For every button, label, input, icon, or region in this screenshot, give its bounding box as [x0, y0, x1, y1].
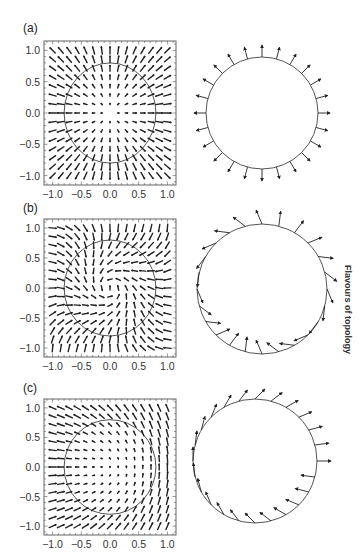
boundary-vector-arrow [228, 161, 234, 171]
x-tick-label: 1.0 [160, 538, 175, 550]
x-tick-label: −0.5 [71, 360, 92, 372]
boundary-vector-arrow [203, 79, 213, 85]
y-tick-label: 0.5 [25, 431, 40, 443]
vector-field-plot-a: −1.0−1.0−0.5−0.50.00.00.50.51.01.0 [19, 41, 176, 200]
x-tick-label: −1.0 [42, 538, 63, 550]
boundary-vector-arrow [295, 488, 309, 492]
x-tick-label: −1.0 [42, 360, 63, 372]
boundary-vector-arrow [256, 210, 262, 224]
panel-label-a: (a) [23, 21, 38, 35]
y-tick-label: −1.0 [19, 170, 40, 182]
boundary-vector-arrow [327, 289, 333, 303]
boundary-vector-arrow [196, 95, 208, 98]
boundary-vector-arrow [302, 153, 310, 161]
y-tick-label: 0.0 [25, 107, 40, 119]
boundary-vector-arrow [271, 393, 282, 402]
boundary-vector-arrow [206, 322, 221, 324]
x-tick-label: 0.0 [103, 188, 118, 200]
boundary-vector-arrow [245, 513, 255, 523]
boundary-vector-arrow [260, 512, 271, 521]
boundary-vector-arrow [214, 65, 222, 73]
boundary-vector-arrow [214, 153, 222, 161]
y-tick-label: −0.5 [19, 491, 40, 503]
boundary-vector-arrow [315, 443, 329, 445]
boundary-vector-arrow [295, 221, 304, 233]
boundary-circle-diagram-a [194, 45, 330, 181]
boundary-vector-arrow [244, 47, 247, 59]
boundary-vector-arrow [245, 337, 247, 352]
boundary-vector-arrow [244, 167, 247, 179]
boundary-vector-arrow [299, 412, 312, 417]
vector-field-plot-c: −1.0−1.0−0.5−0.50.00.00.50.51.01.0 [19, 399, 176, 550]
panel-b: (b) −1.0−1.0−0.5−0.50.00.00.50.51.01.0 [19, 201, 336, 372]
boundary-vector-arrow [230, 333, 239, 345]
x-tick-label: −1.0 [42, 188, 63, 200]
y-tick-label: −1.0 [19, 342, 40, 354]
boundary-vector-arrow [215, 231, 230, 233]
boundary-circle-diagram-b [197, 210, 337, 354]
y-tick-label: −0.5 [19, 312, 40, 324]
boundary-vector-arrow [308, 237, 322, 243]
y-tick-label: −1.0 [19, 520, 40, 532]
boundary-vector-arrow [310, 79, 320, 85]
x-tick-label: 1.0 [160, 360, 175, 372]
boundary-vector-arrow [202, 243, 216, 249]
y-tick-label: −0.5 [19, 138, 40, 150]
boundary-vector-arrow [276, 167, 279, 179]
boundary-vector-arrow [196, 127, 208, 130]
y-tick-label: 1.0 [25, 402, 40, 414]
y-tick-label: 0.5 [25, 252, 40, 264]
boundary-vector-arrow [280, 343, 295, 345]
boundary-vector-arrow [302, 65, 310, 73]
boundary-vector-arrow [290, 161, 296, 171]
boundary-vector-arrow [318, 257, 333, 259]
boundary-vector-arrow [286, 400, 298, 407]
boundary-vector-arrow [316, 95, 328, 98]
boundary-vector-arrow [290, 54, 296, 64]
boundary-vector-arrow [310, 141, 320, 147]
boundary-vector-arrow [276, 47, 279, 59]
boundary-circle [206, 57, 318, 169]
boundary-vector-arrow [279, 211, 281, 226]
y-tick-label: 0.0 [25, 461, 40, 473]
boundary-vector-arrow [267, 343, 279, 352]
y-tick-label: 1.0 [25, 44, 40, 56]
panel-a: (a) −1.0−1.0−0.5−0.50.00.00.50.51.01.0 [19, 21, 330, 200]
x-tick-label: 0.5 [131, 360, 146, 372]
x-tick-label: 0.5 [131, 188, 146, 200]
panel-label-b: (b) [23, 201, 38, 215]
boundary-vector-arrow [233, 217, 245, 226]
x-tick-label: 0.0 [103, 538, 118, 550]
boundary-vector-arrow [216, 329, 230, 335]
panel-c: (c) −1.0−1.0−0.5−0.50.00.00.50.51.01.0 [19, 381, 331, 550]
x-tick-label: 1.0 [160, 188, 175, 200]
panel-label-c: (c) [23, 381, 37, 395]
side-label-flavours-of-topology: Flavours of topology [343, 265, 353, 354]
boundary-circle-diagram-c [193, 389, 331, 523]
y-tick-label: 1.0 [25, 222, 40, 234]
boundary-vector-arrow [203, 141, 213, 147]
boundary-vector-arrow [274, 508, 286, 515]
boundary-vector-arrow [309, 322, 318, 334]
boundary-vector-arrow [256, 340, 262, 354]
x-tick-label: −0.5 [71, 538, 92, 550]
topology-figure: (a) −1.0−1.0−0.5−0.50.00.00.50.51.01.0 (… [0, 0, 364, 559]
boundary-vector-arrow [255, 389, 265, 399]
x-tick-label: 0.5 [131, 538, 146, 550]
y-tick-label: 0.0 [25, 282, 40, 294]
x-tick-label: 0.0 [103, 360, 118, 372]
boundary-vector-arrow [309, 426, 323, 430]
boundary-vector-arrow [301, 475, 315, 477]
boundary-vector-arrow [206, 492, 211, 505]
boundary-vector-arrow [316, 127, 328, 130]
y-tick-label: 0.5 [25, 76, 40, 88]
boundary-vector-arrow [294, 335, 308, 341]
vector-field-plot-b: −1.0−1.0−0.5−0.50.00.00.50.51.01.0 [19, 219, 176, 372]
x-tick-label: −0.5 [71, 188, 92, 200]
boundary-vector-arrow [228, 54, 234, 64]
boundary-vector-arrow [286, 499, 299, 504]
